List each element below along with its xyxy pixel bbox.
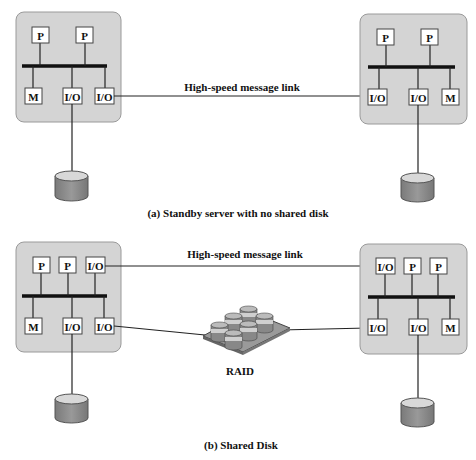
link-label: High-speed message link xyxy=(184,81,300,93)
svg-text:I/O: I/O xyxy=(65,91,81,103)
svg-text:I/O: I/O xyxy=(378,261,394,273)
io-node: I/O xyxy=(95,88,114,104)
processor-node: P xyxy=(33,257,50,273)
processor-node: P xyxy=(32,27,49,43)
svg-text:P: P xyxy=(435,261,442,273)
io-node: I/O xyxy=(376,258,395,274)
memory-node: M xyxy=(442,89,459,105)
disk-icon xyxy=(55,394,88,423)
disk-icon xyxy=(401,173,434,202)
raid-array-icon xyxy=(203,306,290,355)
svg-text:I/O: I/O xyxy=(370,322,386,334)
io-node: I/O xyxy=(86,257,105,273)
part-b-shared-disk: P P I/O M I/O I/O xyxy=(16,242,467,452)
svg-text:P: P xyxy=(64,260,71,272)
svg-text:I/O: I/O xyxy=(411,92,427,104)
svg-text:P: P xyxy=(38,260,45,272)
disk-icon xyxy=(55,171,88,201)
memory-node: M xyxy=(442,319,459,335)
raid-link-left xyxy=(114,326,205,335)
raid-label: RAID xyxy=(226,365,254,377)
svg-text:I/O: I/O xyxy=(88,260,104,272)
svg-text:M: M xyxy=(445,92,456,104)
raid-link-right xyxy=(280,328,368,330)
processor-node: P xyxy=(404,258,421,274)
processor-node: P xyxy=(76,27,93,43)
svg-text:M: M xyxy=(28,91,39,103)
svg-text:M: M xyxy=(445,322,456,334)
svg-text:P: P xyxy=(81,30,88,42)
caption-a: (a) Standby server with no shared disk xyxy=(147,207,329,220)
svg-text:P: P xyxy=(426,32,433,44)
io-node: I/O xyxy=(368,89,387,105)
link-label: High-speed message link xyxy=(187,248,303,260)
processor-node: P xyxy=(430,258,447,274)
left-server-b: P P I/O M I/O I/O xyxy=(16,242,121,352)
caption-b: (b) Shared Disk xyxy=(204,439,279,452)
processor-node: P xyxy=(377,29,394,45)
svg-text:P: P xyxy=(409,261,416,273)
svg-text:I/O: I/O xyxy=(411,322,427,334)
processor-node: P xyxy=(59,257,76,273)
svg-text:M: M xyxy=(28,321,39,333)
io-node: I/O xyxy=(368,319,387,335)
svg-text:P: P xyxy=(382,32,389,44)
svg-text:I/O: I/O xyxy=(65,321,81,333)
memory-node: M xyxy=(25,88,42,104)
io-node: I/O xyxy=(63,318,82,334)
memory-node: M xyxy=(25,318,42,334)
svg-text:I/O: I/O xyxy=(97,91,113,103)
cluster-configurations-diagram: P P M I/O I/O xyxy=(0,0,476,460)
io-node: I/O xyxy=(409,89,428,105)
disk-icon xyxy=(401,398,434,427)
processor-node: P xyxy=(421,29,438,45)
svg-text:I/O: I/O xyxy=(97,321,113,333)
io-node: I/O xyxy=(95,318,114,334)
part-a-standby-server: P P M I/O I/O xyxy=(16,12,467,220)
io-node: I/O xyxy=(63,88,82,104)
io-node: I/O xyxy=(409,319,428,335)
svg-text:I/O: I/O xyxy=(370,92,386,104)
left-server-a: P P M I/O I/O xyxy=(16,12,121,122)
right-server-b: I/O P P I/O I/O M xyxy=(360,244,467,354)
right-server-a: P P I/O I/O M xyxy=(360,14,467,124)
svg-text:P: P xyxy=(37,30,44,42)
